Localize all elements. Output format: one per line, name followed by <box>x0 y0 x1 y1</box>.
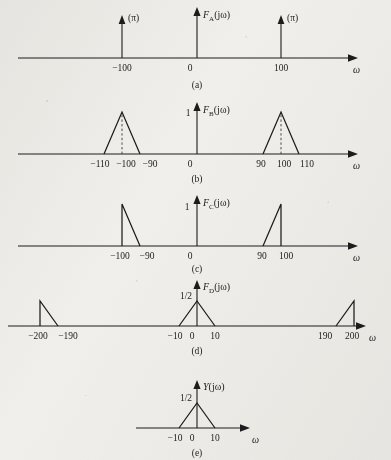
subplot-b-caption: (b) <box>191 174 202 184</box>
right-triangle-neg-100 <box>122 204 140 246</box>
subplot-a-tick-pos-100: 100 <box>274 63 289 73</box>
subplot-e-title: Y(jω) <box>203 381 225 393</box>
subplot-d-caption: (d) <box>191 346 202 357</box>
subplot-a: (π) (π) FA(jω) −100 0 100 ω (a) <box>0 0 391 92</box>
subplot-a-x-axis-arrow <box>348 54 358 62</box>
subplot-c-tick-neg-90: −90 <box>140 251 155 261</box>
subplot-e-x-axis-arrow <box>240 424 250 432</box>
subplot-e-x-axis-label: ω <box>252 434 259 445</box>
subplot-d-tick-neg-200: −200 <box>28 331 48 341</box>
subplot-e-peak-label: 1/2 <box>180 393 192 403</box>
subplot-b-tick-pos-100: 100 <box>277 159 292 169</box>
subplot-e-y-axis-arrow <box>193 380 200 389</box>
subplot-e-tick-neg-10: −10 <box>168 433 183 443</box>
subplot-c-title-tail: (jω) <box>214 197 230 209</box>
subplot-a-x-axis-label: ω <box>353 64 360 75</box>
subplot-d-peak-label: 1/2 <box>180 291 192 301</box>
impulse-pos-100-arrow <box>278 15 285 24</box>
subplot-d-tick-neg-10: −10 <box>168 331 183 341</box>
impulse-pos-100-weight-label: (π) <box>287 13 298 24</box>
subplot-d-title: FD(jω) <box>202 281 230 295</box>
subplot-c-tick-neg-100: −100 <box>110 251 130 261</box>
subplot-e-caption: (e) <box>192 448 203 459</box>
subplot-e: 1/2 Y(jω) −10 0 10 ω (e) <box>0 375 391 460</box>
subplot-b-tick-pos-110: 110 <box>300 159 314 169</box>
subplot-a-caption: (a) <box>192 80 203 91</box>
subplot-c-caption: (c) <box>192 264 203 274</box>
signal-spectra-figure: (π) (π) FA(jω) −100 0 100 ω (a) 1 FB(jω)… <box>0 0 391 460</box>
right-triangle-neg-200 <box>40 301 58 326</box>
subplot-e-tick-zero: 0 <box>190 433 195 443</box>
subplot-d-x-axis-label: ω <box>369 332 376 343</box>
subplot-a-title: FA(jω) <box>202 9 230 23</box>
subplot-c-x-axis-label: ω <box>353 252 360 263</box>
subplot-b-tick-neg-110: −110 <box>90 159 110 169</box>
right-triangle-pos-200 <box>336 301 354 326</box>
subplot-a-tick-neg-100: −100 <box>112 63 132 73</box>
subplot-b-tick-neg-100: −100 <box>116 159 136 169</box>
subplot-e-title-tail: (jω) <box>209 381 225 393</box>
subplot-b-x-axis-label: ω <box>353 160 360 171</box>
subplot-b-tick-pos-90: 90 <box>256 159 266 169</box>
subplot-a-title-tail: (jω) <box>214 9 230 21</box>
subplot-c-tick-pos-90: 90 <box>257 251 267 261</box>
subplot-d-tick-pos-200: 200 <box>345 331 360 341</box>
subplot-a-y-axis-arrow <box>193 7 200 16</box>
subplot-c-peak-label: 1 <box>185 202 190 212</box>
subplot-b-x-axis-arrow <box>348 150 358 158</box>
impulse-neg-100-weight-label: (π) <box>128 13 139 24</box>
subplot-d-tick-pos-10: 10 <box>210 331 220 341</box>
subplot-d-y-axis-arrow <box>193 280 200 289</box>
impulse-neg-100-arrow <box>119 15 126 24</box>
subplot-c-tick-pos-100: 100 <box>279 251 294 261</box>
subplot-d: 1/2 FD(jω) −200 −190 −10 0 10 190 200 ω … <box>0 275 391 367</box>
subplot-b-peak-label: 1 <box>186 108 191 118</box>
subplot-c-tick-zero: 0 <box>188 251 193 261</box>
subplot-c: 1 FC(jω) −100 −90 0 90 100 ω (c) <box>0 186 391 274</box>
subplot-d-tick-zero: 0 <box>190 331 195 341</box>
subplot-d-tick-neg-190: −190 <box>58 331 78 341</box>
subplot-c-x-axis-arrow <box>348 242 358 250</box>
subplot-e-tick-pos-10: 10 <box>210 433 220 443</box>
subplot-b-y-axis-arrow <box>193 102 200 111</box>
subplot-a-tick-zero: 0 <box>188 63 193 73</box>
subplot-b-title-tail: (jω) <box>214 104 230 116</box>
subplot-d-x-axis-arrow <box>356 322 366 330</box>
subplot-c-y-axis-arrow <box>193 195 200 204</box>
subplot-b-tick-zero: 0 <box>188 159 193 169</box>
subplot-d-title-tail: (jω) <box>214 281 230 293</box>
subplot-c-title: FC(jω) <box>202 197 230 211</box>
subplot-b: 1 FB(jω) −110 −100 −90 0 90 100 110 ω (b… <box>0 92 391 184</box>
subplot-b-title: FB(jω) <box>202 104 230 118</box>
subplot-d-tick-pos-190: 190 <box>318 331 333 341</box>
right-triangle-pos-100 <box>263 204 281 246</box>
subplot-b-tick-neg-90: −90 <box>143 159 158 169</box>
